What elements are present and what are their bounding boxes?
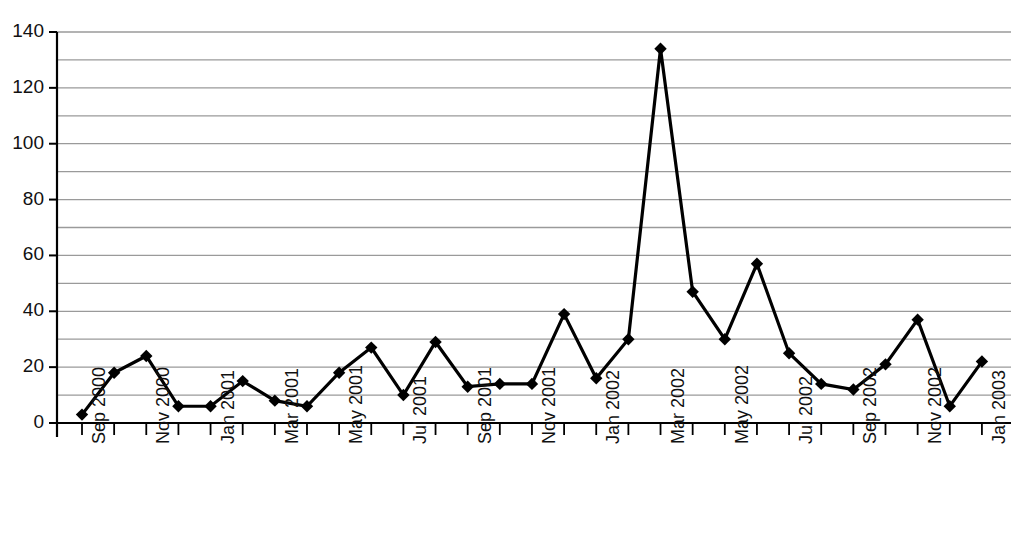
data-point-marker — [526, 378, 538, 390]
y-axis-ticks — [49, 32, 57, 423]
y-axis-tick-label: 140 — [12, 20, 44, 42]
data-point-marker — [654, 43, 666, 55]
x-axis-tick-label: May 2001 — [346, 365, 367, 444]
x-axis-tick-label: Nov 2002 — [925, 367, 946, 444]
x-axis-ticks — [82, 423, 982, 435]
y-axis-tick-label: 80 — [23, 188, 44, 210]
x-axis-tick-label: Jul 2002 — [796, 376, 817, 444]
data-point-markers — [76, 43, 988, 421]
x-axis-tick-label: Nov 2000 — [153, 367, 174, 444]
x-axis-tick-label: Sep 2002 — [860, 367, 881, 444]
chart-plot-area — [0, 0, 1019, 554]
x-axis-tick-label: Sep 2001 — [475, 367, 496, 444]
y-axis-tick-label: 60 — [23, 243, 44, 265]
x-axis-tick-label: Sep 2000 — [89, 367, 110, 444]
x-axis-tick-label: Nov 2001 — [539, 367, 560, 444]
y-axis-tick-label: 120 — [12, 76, 44, 98]
data-point-marker — [751, 258, 763, 270]
y-axis-tick-label: 0 — [33, 411, 44, 433]
x-axis-tick-label: Jan 2002 — [603, 370, 624, 444]
data-point-marker — [558, 308, 570, 320]
x-axis-tick-label: Jan 2001 — [218, 370, 239, 444]
x-axis-tick-label: Jan 2003 — [989, 370, 1010, 444]
y-axis-tick-label: 100 — [12, 132, 44, 154]
x-axis-tick-label: Mar 2001 — [282, 368, 303, 444]
x-axis-tick-label: May 2002 — [732, 365, 753, 444]
y-axis-tick-label: 40 — [23, 299, 44, 321]
y-axis-tick-label: 20 — [23, 355, 44, 377]
x-axis-tick-label: Mar 2002 — [668, 368, 689, 444]
line-chart: 020406080100120140 Sep 2000Nov 2000Jan 2… — [0, 0, 1019, 554]
data-series-line — [82, 49, 982, 415]
gridlines — [57, 32, 1011, 423]
x-axis-tick-label: Jul 2001 — [410, 376, 431, 444]
